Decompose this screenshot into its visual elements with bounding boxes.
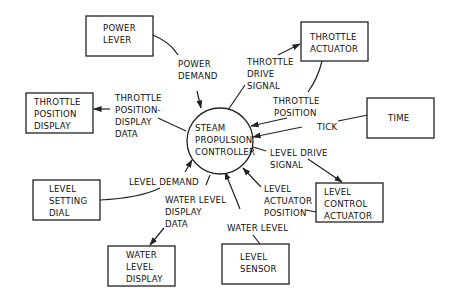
flow-label-line: DRIVE bbox=[247, 69, 274, 79]
flow-label-line: LEVEL bbox=[264, 184, 291, 194]
flow-label-line: DEMAND bbox=[178, 71, 218, 81]
flow-line-throttle-position-upper bbox=[308, 61, 322, 92]
flow-label-line: LEVEL DRIVE bbox=[270, 148, 328, 158]
context-diagram: STEAM PROPULSION CONTROLLER POWER LEVER … bbox=[0, 0, 458, 304]
flow-label-line: THROTTLE bbox=[114, 93, 162, 103]
entity-label-line: LEVEL bbox=[324, 187, 351, 197]
flow-label-throttle-drive-signal: THROTTLE DRIVE SIGNAL bbox=[246, 57, 294, 91]
flow-arrow-level-drive-signal bbox=[308, 159, 342, 182]
process-label-line-1: STEAM bbox=[195, 123, 225, 133]
flow-label-level-actuator-position: LEVEL ACTUATOR POSITION bbox=[264, 184, 312, 218]
flow-label-line: SIGNAL bbox=[247, 81, 280, 91]
flow-label-water-level-display-data: WATER LEVEL DISPLAY DATA bbox=[165, 195, 226, 229]
flow-arrow-water-level-display-data bbox=[150, 228, 164, 245]
entity-label-line: CONTROL bbox=[324, 199, 367, 209]
flow-label-line: THROTTLE bbox=[246, 57, 294, 67]
flow-line-level-demand bbox=[100, 188, 160, 200]
flow-label-line: TICK bbox=[316, 122, 337, 132]
flow-line-water-level bbox=[253, 235, 260, 244]
entity-water-level-display[interactable]: WATER LEVEL DISPLAY bbox=[108, 246, 175, 286]
entity-label-line: LEVEL bbox=[240, 252, 267, 262]
entity-label-line: LEVER bbox=[103, 35, 132, 45]
flow-label-line: POSITION bbox=[274, 108, 317, 118]
entity-label-line: SETTING bbox=[49, 196, 87, 206]
flow-label-line: WATER LEVEL bbox=[165, 195, 226, 205]
flow-line-power-demand-upper bbox=[153, 35, 178, 55]
flow-label-line: DISPLAY bbox=[115, 117, 152, 127]
flow-line-throttle-position-display-data bbox=[158, 118, 186, 131]
flow-line-throttle-drive-signal-lower bbox=[228, 85, 245, 110]
flow-label-line: THROTTLE bbox=[272, 96, 320, 106]
flow-arrow-level-actuator-position bbox=[243, 168, 261, 187]
flow-label-throttle-position: THROTTLE POSITION bbox=[272, 96, 320, 118]
entity-label-line: DISPLAY bbox=[126, 274, 163, 284]
entity-label-line: THROTTLE bbox=[309, 32, 357, 42]
entity-label-line: DISPLAY bbox=[34, 121, 71, 131]
process-label-line-3: CONTROLLER bbox=[195, 147, 255, 157]
flow-label-line: DATA bbox=[165, 219, 188, 229]
flow-label-line: POSITION bbox=[264, 208, 307, 218]
entity-label-line: WATER bbox=[126, 250, 157, 260]
entity-label-line: POSITION bbox=[34, 109, 77, 119]
entity-label-line: THROTTLE bbox=[33, 97, 81, 107]
entity-label-line: TIME bbox=[387, 113, 409, 123]
flow-line-tick-upper bbox=[338, 115, 368, 121]
flow-arrow-water-level bbox=[225, 172, 240, 209]
entity-label-line: LEVEL bbox=[126, 262, 153, 272]
entity-throttle-actuator[interactable]: THROTTLE ACTUATOR bbox=[301, 22, 368, 61]
flow-label-line: ACTUATOR bbox=[264, 196, 312, 206]
entity-throttle-position-display[interactable]: THROTTLE POSITION DISPLAY bbox=[26, 93, 93, 133]
entity-label-line: ACTUATOR bbox=[324, 211, 372, 221]
entity-label-line: LEVEL bbox=[49, 184, 76, 194]
process-steam-propulsion-controller[interactable]: STEAM PROPULSION CONTROLLER bbox=[187, 108, 255, 174]
flow-label-throttle-position-display-data: THROTTLE POSITION- DISPLAY DATA bbox=[114, 93, 162, 139]
flow-arrow-throttle-position bbox=[251, 118, 287, 126]
flow-label-line: DATA bbox=[115, 129, 138, 139]
flow-label-water-level: WATER LEVEL bbox=[227, 223, 288, 233]
entity-level-setting-dial[interactable]: LEVEL SETTING DIAL bbox=[33, 180, 100, 220]
flow-label-line: LEVEL DEMAND bbox=[129, 177, 199, 187]
flow-label-line: SIGNAL bbox=[270, 160, 303, 170]
entity-label-line: POWER bbox=[103, 23, 136, 33]
entity-time[interactable]: TIME bbox=[367, 98, 434, 138]
flow-line-water-level-display-data-upper bbox=[206, 175, 210, 185]
process-label-line-2: PROPULSION bbox=[195, 135, 252, 145]
flow-arrow-throttle-drive-signal bbox=[278, 44, 300, 55]
flow-label-line: WATER LEVEL bbox=[227, 223, 288, 233]
flow-label-power-demand: POWER DEMAND bbox=[178, 59, 218, 81]
flow-label-line: DISPLAY bbox=[165, 207, 202, 217]
flow-label-level-demand: LEVEL DEMAND bbox=[129, 177, 199, 187]
flow-arrow-tick bbox=[253, 127, 302, 137]
flow-label-tick: TICK bbox=[316, 122, 337, 132]
flow-line-level-actuator-position bbox=[306, 210, 316, 212]
entity-level-sensor[interactable]: LEVEL SENSOR bbox=[222, 244, 289, 284]
entity-power-lever[interactable]: POWER LEVER bbox=[86, 16, 153, 56]
entity-label-line: SENSOR bbox=[240, 264, 277, 274]
flow-label-line: POSITION- bbox=[115, 105, 161, 115]
flow-arrow-level-demand bbox=[185, 160, 192, 172]
entity-level-control-actuator[interactable]: LEVEL CONTROL ACTUATOR bbox=[316, 183, 383, 222]
entity-label-line: DIAL bbox=[49, 208, 70, 218]
flow-arrow-power-demand bbox=[197, 91, 201, 108]
flow-label-line: POWER bbox=[178, 59, 211, 69]
entity-label-line: ACTUATOR bbox=[310, 44, 358, 54]
